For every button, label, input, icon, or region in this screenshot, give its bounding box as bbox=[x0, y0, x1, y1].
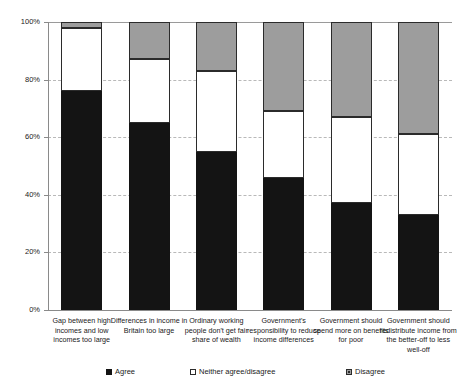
gridline-100pct bbox=[48, 22, 452, 23]
y-tick-label: 100% bbox=[0, 18, 40, 26]
bar-segment-disagree[interactable] bbox=[398, 22, 439, 134]
x-axis-line bbox=[48, 310, 452, 311]
plot-area bbox=[48, 22, 452, 310]
x-axis-category-label: Gap between high incomes and low incomes… bbox=[43, 316, 120, 345]
x-axis-category-label: Government should spend more on benefits… bbox=[312, 316, 389, 345]
stacked-bar[interactable] bbox=[129, 22, 170, 310]
gridline-80pct bbox=[48, 80, 452, 81]
x-axis-category-label: Ordinary working people don't get fair s… bbox=[178, 316, 255, 345]
y-axis-line bbox=[48, 22, 49, 311]
bar-segment-disagree[interactable] bbox=[129, 22, 170, 59]
stacked-bar[interactable] bbox=[61, 22, 102, 310]
y-tick-label: 40% bbox=[0, 191, 40, 199]
agree-swatch bbox=[106, 369, 112, 375]
bar-segment-disagree[interactable] bbox=[331, 22, 372, 117]
stacked-bar[interactable] bbox=[263, 22, 304, 310]
stacked-bar[interactable] bbox=[196, 22, 237, 310]
x-axis-category-label: Government's responsibility to reduce in… bbox=[245, 316, 322, 345]
bar-segment-agree[interactable] bbox=[196, 152, 237, 310]
bar-segment-neither[interactable] bbox=[331, 117, 372, 203]
stacked-bar[interactable] bbox=[331, 22, 372, 310]
y-tick-label: 60% bbox=[0, 133, 40, 141]
bar-segment-agree[interactable] bbox=[331, 203, 372, 310]
legend-item-neither-agree-disagree[interactable]: Neither agree/disagree bbox=[190, 367, 275, 376]
bar-segment-neither[interactable] bbox=[129, 59, 170, 122]
bar-segment-neither[interactable] bbox=[263, 111, 304, 177]
x-axis-category-label: Differences in income in Britain too lar… bbox=[110, 316, 187, 335]
x-axis-category-label: Government should redistribute income fr… bbox=[380, 316, 457, 354]
x-axis-category-labels: Gap between high incomes and low incomes… bbox=[48, 316, 452, 364]
legend-item-label: Disagree bbox=[355, 367, 385, 376]
legend-item-label: Agree bbox=[115, 367, 135, 376]
stacked-bar[interactable] bbox=[398, 22, 439, 310]
gridline-20pct bbox=[48, 252, 452, 253]
bar-segment-agree[interactable] bbox=[61, 91, 102, 310]
bar-segment-disagree[interactable] bbox=[196, 22, 237, 71]
bar-segment-disagree[interactable] bbox=[263, 22, 304, 111]
y-tick-label: 20% bbox=[0, 248, 40, 256]
legend-item-agree[interactable]: Agree bbox=[106, 367, 135, 376]
bar-segment-neither[interactable] bbox=[61, 28, 102, 91]
disagree-swatch bbox=[346, 369, 352, 375]
neither-swatch bbox=[190, 369, 196, 375]
y-tick-label: 80% bbox=[0, 76, 40, 84]
gridline-40pct bbox=[48, 195, 452, 196]
bar-segment-agree[interactable] bbox=[263, 178, 304, 310]
gridline-60pct bbox=[48, 137, 452, 138]
bar-segment-neither[interactable] bbox=[398, 134, 439, 215]
chart-legend: AgreeNeither agree/disagreeDisagree bbox=[0, 367, 458, 381]
stacked-bar-chart: 0%20%40%60%80%100% Gap between high inco… bbox=[0, 0, 458, 390]
y-tick-label: 0% bbox=[0, 306, 40, 314]
legend-item-label: Neither agree/disagree bbox=[199, 367, 275, 376]
legend-item-disagree[interactable]: Disagree bbox=[346, 367, 385, 376]
bar-segment-neither[interactable] bbox=[196, 71, 237, 152]
bar-segment-agree[interactable] bbox=[398, 215, 439, 310]
bar-segment-agree[interactable] bbox=[129, 123, 170, 310]
